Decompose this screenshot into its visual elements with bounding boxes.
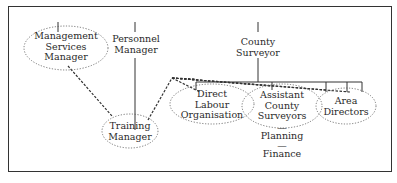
node-county-surveyor: County Surveyor [228,37,288,58]
node-label-line: County [228,37,288,48]
node-label-line: Manager [26,52,106,63]
node-label-line: Assistant [244,90,320,101]
node-management-services-manager: Management Services Manager [26,31,106,63]
node-personnel-manager: Personnel Manager [108,34,164,55]
node-label-line: Direct [174,89,250,100]
figure-caption-faint [170,175,250,183]
node-label-line: Area [318,96,374,107]
node-label-line: Surveyor [228,48,288,59]
node-training-manager: Training Manager [102,121,158,142]
node-label-line: Finance [252,149,312,160]
node-label-line: Training [102,121,158,132]
node-label-line: Directors [318,107,374,118]
node-direct-labour-organisation: Direct Labour Organisation [174,89,250,121]
node-label-line: Management [26,31,106,42]
node-finance: — Finance [252,142,312,160]
node-label-line: Surveyors [244,111,320,122]
node-label-line: Personnel [108,34,164,45]
node-label-line: Organisation [174,110,250,121]
node-assistant-county-surveyors: Assistant County Surveyors [244,90,320,122]
node-area-directors: Area Directors [318,96,374,117]
node-label-line: Manager [102,132,158,143]
node-label-line: Manager [108,45,164,56]
node-planning: — Planning [252,124,312,142]
